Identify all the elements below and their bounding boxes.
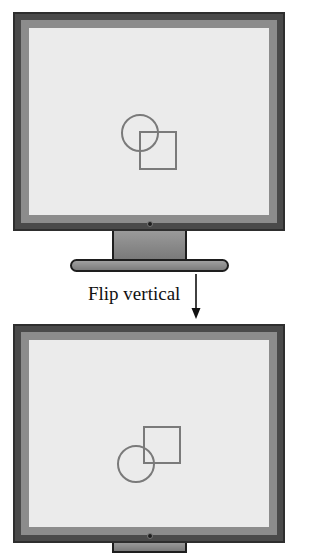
flipped-square-shape bbox=[144, 427, 180, 463]
flipped-shapes bbox=[118, 427, 180, 482]
original-shapes bbox=[122, 115, 176, 169]
